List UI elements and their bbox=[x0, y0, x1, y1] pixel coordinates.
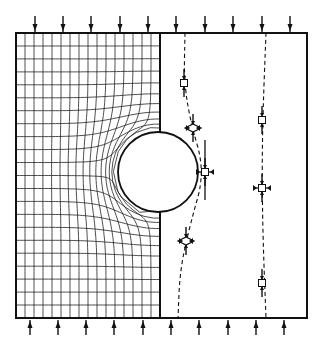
load-arrow-top bbox=[61, 16, 66, 32]
load-arrow-bottom bbox=[141, 320, 146, 335]
load-arrow-top bbox=[174, 16, 179, 32]
element-far-upper bbox=[259, 106, 266, 134]
load-arrow-bottom bbox=[56, 320, 61, 335]
load-arrow-top bbox=[203, 16, 208, 32]
load-arrow-bottom bbox=[254, 320, 259, 335]
load-arrow-bottom bbox=[28, 320, 33, 335]
load-arrow-top bbox=[146, 16, 151, 32]
load-arrow-top bbox=[288, 16, 293, 32]
far-trajectory bbox=[262, 33, 266, 318]
element-upper-diag bbox=[185, 114, 201, 142]
plate-with-hole-diagram bbox=[0, 0, 315, 343]
load-arrow-bottom bbox=[169, 320, 174, 335]
load-arrow-top bbox=[231, 16, 236, 32]
element-far-mid bbox=[253, 174, 271, 202]
load-arrow-bottom bbox=[226, 320, 231, 335]
load-arrow-bottom bbox=[282, 320, 287, 335]
load-arrow-top bbox=[89, 16, 94, 32]
element-lower-diag bbox=[178, 227, 194, 255]
load-arrow-bottom bbox=[84, 320, 89, 335]
load-arrow-top bbox=[260, 16, 265, 32]
load-arrow-top bbox=[118, 16, 123, 32]
load-arrow-bottom bbox=[112, 320, 117, 335]
load-arrow-bottom bbox=[197, 320, 202, 335]
load-arrow-top bbox=[33, 16, 38, 32]
